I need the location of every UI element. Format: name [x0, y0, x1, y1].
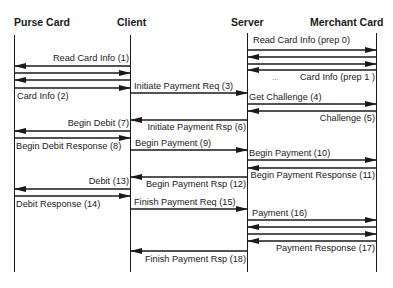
label-begin-payment-response-11: Begin Payment Response (11) — [251, 170, 375, 181]
label-card-info-prep1: Card Info (prep 1 ) — [300, 72, 375, 83]
label-read-card-info-prep0: Read Card Info (prep 0) — [253, 35, 350, 46]
label-debit-response-14: Debit Response (14) — [16, 199, 100, 210]
label-challenge-5: Challenge (5) — [320, 113, 375, 124]
label-begin-payment-10: Begin Payment (10) — [249, 148, 330, 159]
label-begin-debit-response-8: Begin Debit Response (8) — [16, 141, 121, 152]
label-read-card-info-1: Read Card Info (1) — [53, 53, 129, 64]
label-payment-response-17: Payment Response (17) — [276, 243, 375, 254]
label-card-info-2: Card Info (2) — [17, 91, 69, 102]
label-debit-13: Debit (13) — [89, 176, 129, 187]
label-begin-payment-rsp-12: Begin Payment Rsp (12) — [146, 179, 246, 190]
label-payment-16: Payment (16) — [252, 208, 307, 219]
label-begin-payment-9: Begin Payment (9) — [135, 138, 211, 149]
label-initiate-payment-req-3: Initiate Payment Req (3) — [134, 81, 233, 92]
label-finish-payment-rsp-18: Finish Payment Rsp (18) — [145, 254, 246, 265]
label-finish-payment-req-15: Finish Payment Req (15) — [134, 197, 236, 208]
label-get-challenge-4: Get Challenge (4) — [249, 92, 322, 103]
label-initiate-payment-rsp-6: Initiate Payment Rsp (6) — [147, 122, 246, 133]
label-begin-debit-7: Begin Debit (7) — [68, 118, 129, 129]
label-ellipsis: ... — [272, 72, 279, 83]
